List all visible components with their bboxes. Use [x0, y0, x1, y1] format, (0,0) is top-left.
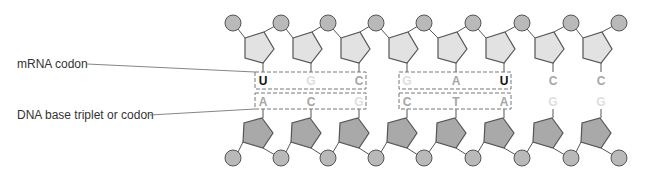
dna-base-letter: C [307, 95, 316, 109]
backbone-link [601, 148, 613, 155]
dna-base-letter: C [403, 95, 412, 109]
backbone-link [553, 148, 565, 155]
mrna-base-letter: G [306, 74, 315, 88]
ribose-sugar-pentagon [389, 32, 418, 63]
backbone-link [429, 29, 438, 38]
dna-mrna-diagram: UGCGAUCCACGCTAGG [0, 0, 652, 176]
backbone-link [429, 142, 436, 152]
phosphate-circle [514, 15, 530, 31]
phosphate-circle [273, 15, 289, 31]
backbone-link [478, 142, 484, 152]
codon-boxes [255, 72, 511, 109]
backbone-link [505, 26, 516, 32]
deoxyribose-sugar-pentagon [339, 118, 369, 148]
backbone-link [602, 26, 613, 32]
dna-strand [225, 109, 627, 166]
backbone-link [478, 29, 486, 38]
phosphate-circle [465, 150, 481, 166]
phosphate-circle [611, 150, 627, 166]
backbone-link [311, 148, 322, 155]
phosphate-circle [225, 15, 241, 31]
mrna-base-letter: C [549, 74, 558, 88]
deoxyribose-sugar-pentagon [387, 118, 417, 148]
backbone-link [381, 142, 387, 152]
backbone-link [238, 142, 243, 152]
backbone-link [576, 29, 583, 38]
mrna-base-letter: U [500, 74, 509, 88]
dna-base-letter: G [548, 95, 557, 109]
ribose-sugar-pentagon [583, 32, 612, 63]
mrna-base-letter: C [597, 74, 606, 88]
deoxyribose-sugar-pentagon [581, 118, 611, 148]
dna-base-letter: A [500, 95, 509, 109]
dna-leader-line [150, 109, 255, 115]
base-letters: UGCGAUCCACGCTAGG [259, 74, 606, 109]
mrna-base-letter: U [259, 74, 268, 88]
ribose-sugar-pentagon [535, 32, 564, 63]
backbone-link [238, 29, 245, 38]
backbone-link [576, 142, 581, 152]
mrna-base-letter: A [452, 74, 461, 88]
backbone-link [333, 29, 341, 38]
dna-base-letter: T [452, 95, 460, 109]
ribose-sugar-pentagon [438, 32, 467, 63]
backbone-link [264, 26, 275, 32]
ribose-sugar-pentagon [293, 32, 322, 63]
phosphate-circle [416, 15, 432, 31]
phosphate-circle [611, 15, 627, 31]
backbone-link [504, 148, 516, 155]
backbone-link [381, 29, 389, 38]
mrna-strand [225, 15, 627, 72]
deoxyribose-sugar-pentagon [484, 118, 514, 148]
ribose-sugar-pentagon [486, 32, 515, 63]
mrna-base-letter: C [355, 74, 364, 88]
backbone-link [554, 26, 565, 32]
phosphate-circle [320, 150, 336, 166]
phosphate-circle [514, 150, 530, 166]
phosphate-circle [368, 150, 384, 166]
backbone-link [286, 29, 293, 38]
phosphate-circle [563, 150, 579, 166]
phosphate-circle [273, 150, 289, 166]
phosphate-circle [416, 150, 432, 166]
backbone-link [333, 142, 339, 152]
phosphate-circle [563, 15, 579, 31]
deoxyribose-sugar-pentagon [436, 118, 466, 148]
ribose-sugar-pentagon [341, 32, 370, 63]
phosphate-circle [225, 150, 241, 166]
dna-base-letter: A [259, 95, 268, 109]
backbone-link [407, 148, 418, 155]
deoxyribose-sugar-pentagon [533, 118, 563, 148]
ribose-sugar-pentagon [245, 32, 274, 63]
mrna-base-letter: G [402, 74, 411, 88]
dna-base-letter: G [596, 95, 605, 109]
backbone-link [456, 148, 467, 155]
dna-base-letter: G [354, 95, 363, 109]
phosphate-circle [368, 15, 384, 31]
backbone-link [527, 29, 535, 38]
deoxyribose-sugar-pentagon [291, 118, 321, 148]
backbone-link [286, 142, 291, 152]
backbone-link [359, 148, 370, 155]
phosphate-circle [465, 15, 481, 31]
deoxyribose-sugar-pentagon [243, 118, 273, 148]
backbone-link [527, 142, 533, 152]
backbone-link [263, 148, 275, 155]
mrna-leader-line [87, 64, 255, 72]
phosphate-circle [320, 15, 336, 31]
